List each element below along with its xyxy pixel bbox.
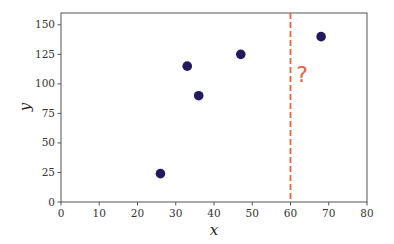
- y-tick-label: 25: [42, 166, 55, 178]
- scatter-chart: 01020304050607080 0255075100125150 ? x y: [0, 0, 394, 244]
- annotations: ?: [291, 13, 308, 202]
- data-points: [156, 32, 326, 179]
- y-tick-label: 100: [35, 77, 55, 89]
- y-tick-label: 150: [35, 18, 55, 30]
- y-axis-label: y: [16, 102, 34, 112]
- y-tick-label: 50: [42, 136, 55, 148]
- data-point: [316, 32, 326, 42]
- data-point: [236, 50, 246, 60]
- x-tick-label: 60: [284, 207, 297, 219]
- y-tick-label: 0: [48, 196, 55, 208]
- y-tick-label: 75: [42, 107, 55, 119]
- x-axis-label: x: [210, 221, 219, 239]
- x-tick-label: 70: [322, 207, 335, 219]
- data-point: [182, 61, 192, 71]
- x-axis-ticks: 01020304050607080: [58, 202, 374, 219]
- y-axis-ticks: 0255075100125150: [35, 18, 61, 207]
- x-tick-label: 80: [360, 207, 373, 219]
- x-tick-label: 0: [58, 207, 65, 219]
- x-tick-label: 10: [93, 207, 106, 219]
- x-tick-label: 40: [207, 207, 220, 219]
- x-tick-label: 20: [131, 207, 144, 219]
- x-tick-label: 50: [246, 207, 259, 219]
- data-point: [156, 169, 166, 179]
- question-mark-annotation: ?: [296, 62, 308, 87]
- x-tick-label: 30: [169, 207, 182, 219]
- y-tick-label: 125: [35, 48, 55, 60]
- data-point: [194, 91, 204, 101]
